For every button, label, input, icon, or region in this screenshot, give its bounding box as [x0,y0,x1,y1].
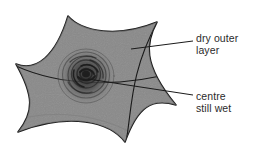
label-dry-outer-layer-line-2: layer [196,45,238,57]
label-dry-outer-layer: dry outer layer [196,33,238,56]
label-centre-still-wet-line-2: still wet [196,103,231,115]
wet-centre [56,46,116,106]
label-centre-still-wet: centre still wet [196,91,231,114]
label-centre-still-wet-line-1: centre [196,91,231,103]
label-dry-outer-layer-line-1: dry outer [196,33,238,45]
diagram-figure: dry outer layer centre still wet [0,0,266,156]
drying-patch-illustration [0,0,266,156]
